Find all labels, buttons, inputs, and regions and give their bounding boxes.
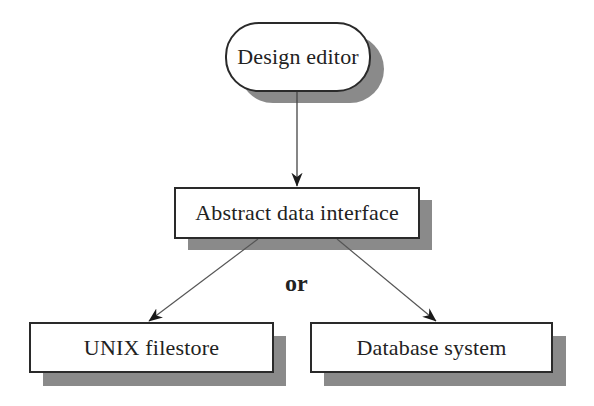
node-label: Abstract data interface	[195, 200, 399, 226]
branch-label-or: or	[285, 270, 308, 297]
node-database-system: Database system	[310, 322, 553, 373]
node-label: Database system	[356, 335, 506, 361]
node-design-editor: Design editor	[225, 22, 371, 92]
node-unix-filestore: UNIX filestore	[29, 322, 274, 373]
node-abstract-data-interface: Abstract data interface	[174, 187, 420, 239]
node-label: UNIX filestore	[84, 335, 219, 361]
arrow-interface-to-unix	[149, 239, 258, 321]
node-label: Design editor	[237, 44, 359, 70]
arrow-interface-to-database	[337, 239, 436, 321]
